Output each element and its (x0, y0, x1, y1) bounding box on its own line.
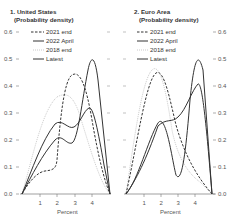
svg-text:4: 4 (91, 200, 95, 206)
svg-text:0.5: 0.5 (218, 56, 227, 62)
legend: 2021 end 2022 April 2018 end Latest (31, 28, 74, 62)
svg-text:0.2: 0.2 (4, 137, 13, 143)
svg-text:1: 1 (39, 200, 43, 206)
svg-text:0.4: 0.4 (218, 83, 227, 89)
svg-text:0.1: 0.1 (4, 164, 13, 170)
series-lines (126, 60, 212, 194)
svg-text:0.2: 0.2 (218, 137, 227, 143)
panel-subtitle: (Probability density) (139, 16, 198, 23)
svg-text:0.0: 0.0 (218, 191, 227, 197)
svg-text:1: 1 (143, 200, 147, 206)
series-2022-april (126, 60, 212, 194)
panel-title: 2. Euro Area (134, 8, 171, 15)
svg-text:0.6: 0.6 (4, 29, 13, 35)
x-axis: 1 2 3 4 Percent (124, 194, 215, 215)
y-axis-right: 0.6 0.5 0.4 0.3 0.2 0.1 0.0 (213, 29, 227, 197)
svg-text:0.3: 0.3 (4, 110, 13, 116)
svg-text:2018 end: 2018 end (150, 46, 176, 53)
svg-text:2022 April: 2022 April (150, 37, 178, 44)
series-2021-end (126, 72, 212, 194)
svg-text:0.5: 0.5 (4, 56, 13, 62)
svg-text:Latest: Latest (46, 55, 63, 62)
svg-text:2: 2 (160, 200, 164, 206)
panel-euro-area: 2. Euro Area (Probability density) 0.6 0… (123, 8, 227, 215)
svg-text:3: 3 (74, 200, 78, 206)
svg-text:0.3: 0.3 (218, 110, 227, 116)
panel-subtitle: (Probability density) (14, 16, 73, 23)
series-2021-end (22, 74, 110, 194)
svg-text:2021 end: 2021 end (150, 28, 176, 35)
panel-title: 1. United States (10, 8, 57, 15)
svg-text:0.4: 0.4 (4, 83, 13, 89)
series-lines (22, 60, 110, 194)
series-latest (22, 108, 110, 194)
svg-text:2: 2 (56, 200, 60, 206)
svg-text:Latest: Latest (150, 55, 167, 62)
svg-text:3: 3 (177, 200, 181, 206)
svg-text:0.0: 0.0 (4, 191, 13, 197)
x-axis: 1 2 3 4 Percent (20, 194, 111, 215)
panel-united-states: 1. United States (Probability density) 0… (4, 8, 111, 215)
x-axis-label: Percent (57, 209, 78, 215)
svg-text:0.6: 0.6 (218, 29, 227, 35)
svg-text:2022 April: 2022 April (46, 37, 74, 44)
svg-text:4: 4 (194, 200, 198, 206)
series-2018-end (126, 69, 212, 194)
svg-text:0.1: 0.1 (218, 164, 227, 170)
chart-figure: 1. United States (Probability density) 0… (0, 0, 235, 221)
x-axis-label: Percent (160, 209, 181, 215)
legend: 2021 end 2022 April 2018 end Latest (137, 28, 178, 62)
svg-text:2018 end: 2018 end (46, 46, 72, 53)
svg-text:2021 end: 2021 end (46, 28, 72, 35)
